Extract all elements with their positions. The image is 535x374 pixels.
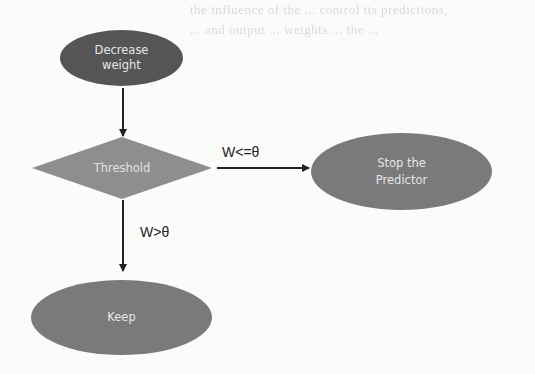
node-keep-label: Keep — [107, 310, 135, 325]
node-stop-the-predictor: Stop the Predictor — [311, 133, 492, 210]
node-threshold-label: Threshold — [32, 137, 212, 199]
node-keep: Keep — [31, 280, 212, 355]
node-decrease-weight-label-2: weight — [102, 58, 141, 73]
edge-label-w-gt-theta: W>θ — [140, 224, 169, 240]
node-decrease-weight: Decrease weight — [60, 30, 183, 86]
node-stop-label-2: Predictor — [376, 172, 427, 189]
node-decrease-weight-label-1: Decrease — [95, 43, 149, 58]
node-stop-label-1: Stop the — [377, 155, 426, 172]
node-threshold: Threshold — [32, 137, 212, 199]
edge-label-w-le-theta: W<=θ — [222, 144, 259, 160]
